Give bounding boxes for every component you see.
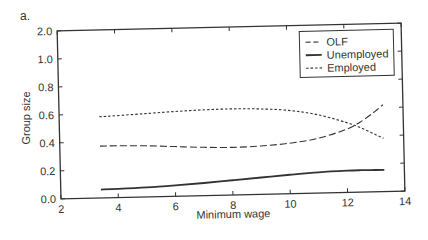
- y-tick-label: 0.8: [38, 81, 54, 93]
- y-tick-label: 0.4: [39, 137, 55, 149]
- legend-label: Employed: [327, 61, 376, 74]
- line-chart: 2468101214 0.00.20.40.60.81.02.0 OLFUnem…: [0, 0, 428, 240]
- x-tick-label: 12: [342, 196, 355, 208]
- x-tick-label: 4: [115, 201, 121, 213]
- x-tick-label: 6: [173, 200, 179, 212]
- legend-label: OLF: [326, 35, 348, 47]
- series-unemployed-line: [101, 170, 385, 190]
- x-tick-label: 10: [284, 198, 297, 210]
- series-lines: [99, 105, 385, 190]
- legend-label: Unemployed: [327, 47, 389, 60]
- y-tick-label: 0.2: [40, 165, 56, 177]
- y-tick-label: 0.6: [39, 109, 55, 121]
- y-axis-label: Group size: [20, 91, 32, 144]
- chart-figure: a. 2468101214 0.00.20.40.60.81.02.0 OLFU…: [0, 0, 428, 240]
- legend: OLFUnemployedEmployed: [299, 29, 394, 77]
- series-olf-line: [99, 105, 384, 151]
- y-tick-label: 0.0: [41, 193, 57, 205]
- y-tick-label: 1.0: [37, 53, 53, 65]
- y-tick-label: 2.0: [37, 25, 53, 37]
- x-tick-label: 14: [399, 195, 412, 207]
- series-employed-line: [99, 105, 383, 144]
- x-tick-label: 2: [58, 203, 64, 215]
- x-axis-label: Minimum wage: [196, 207, 270, 221]
- panel-label: a.: [20, 9, 30, 23]
